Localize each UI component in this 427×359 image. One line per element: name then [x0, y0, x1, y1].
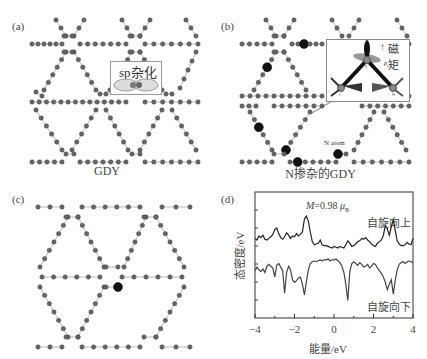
carbon-atom — [170, 108, 174, 112]
carbon-atom — [89, 80, 93, 84]
carbon-atom — [169, 100, 173, 104]
carbon-atom — [140, 223, 144, 227]
carbon-atom — [154, 335, 158, 339]
carbon-atom — [70, 50, 74, 54]
carbon-atom — [120, 275, 124, 279]
carbon-atom — [52, 310, 56, 314]
carbon-atom — [36, 205, 40, 209]
carbon-atom — [304, 104, 308, 108]
carbon-atom — [264, 18, 268, 22]
carbon-atom — [80, 326, 84, 330]
carbon-atom — [296, 94, 300, 98]
carbon-atom — [160, 345, 164, 349]
carbon-atom — [169, 42, 173, 46]
carbon-atom — [272, 34, 276, 38]
dopant-atom — [300, 40, 309, 49]
carbon-atom — [138, 148, 142, 152]
x-axis-label: 能量/eV — [309, 340, 347, 356]
carbon-atom — [272, 104, 276, 108]
carbon-atom — [124, 100, 128, 104]
carbon-atom — [78, 42, 82, 46]
carbon-atom — [30, 100, 34, 104]
carbon-atom — [296, 104, 300, 108]
carbon-atom — [312, 104, 316, 108]
carbon-atom — [91, 345, 95, 349]
carbon-atom — [196, 42, 200, 46]
carbon-atom — [148, 18, 152, 22]
carbon-atom — [364, 125, 368, 129]
sp-orbital-icon — [111, 62, 161, 94]
carbon-atom — [240, 104, 244, 108]
carbon-atom — [94, 108, 98, 112]
carbon-atom — [194, 148, 198, 152]
carbon-atom — [179, 124, 183, 128]
carbon-atom — [308, 110, 312, 114]
carbon-atom — [286, 57, 290, 61]
y-axis-label: 态密度/eV — [231, 221, 247, 291]
carbon-atom — [130, 152, 134, 156]
carbon-atom — [360, 104, 364, 108]
carbon-atom — [133, 240, 137, 244]
carbon-atom — [103, 345, 107, 349]
carbon-atom — [287, 26, 291, 30]
carbon-atom — [247, 42, 251, 46]
carbon-atom — [168, 310, 172, 314]
carbon-atom — [85, 42, 89, 46]
carbon-atom — [174, 345, 178, 349]
carbon-atom — [174, 205, 178, 209]
carbon-atom — [269, 26, 273, 30]
carbon-atom — [304, 88, 308, 92]
carbon-atom — [293, 133, 297, 137]
carbon-atom — [270, 42, 274, 46]
carbon-atom — [116, 265, 120, 269]
carbon-atom — [280, 94, 284, 98]
carbon-atom — [84, 124, 88, 128]
carbon-atom — [132, 275, 136, 279]
carbon-atom — [59, 26, 63, 30]
carbon-atom — [156, 275, 160, 279]
carbon-atom — [42, 42, 46, 46]
carbon-atom — [184, 132, 188, 136]
carbon-atom — [254, 104, 258, 108]
carbon-atom — [84, 231, 88, 235]
panel-b: (b) C C N ↑ 磁矩 pz N atom N掺杂的GDY — [214, 0, 427, 180]
carbon-atom — [55, 65, 59, 69]
carbon-atom — [288, 94, 292, 98]
carbon-atom — [188, 345, 192, 349]
carbon-atom — [54, 42, 58, 46]
carbon-atom — [383, 104, 387, 108]
carbon-atom — [73, 100, 77, 104]
carbon-atom — [282, 50, 286, 54]
carbon-atom — [186, 68, 190, 72]
carbon-atom — [182, 285, 186, 289]
carbon-atom — [247, 104, 251, 108]
carbon-atom — [272, 94, 276, 98]
carbon-atom — [335, 26, 339, 30]
spin-down-label: 自旋向下 — [367, 298, 411, 314]
carbon-atom — [104, 265, 108, 269]
carbon-atom — [75, 140, 79, 144]
carbon-atom — [80, 223, 84, 227]
carbon-atom — [46, 80, 50, 84]
carbon-atom — [312, 94, 316, 98]
carbon-atom — [160, 108, 164, 112]
carbon-atom — [77, 26, 81, 30]
carbon-atom — [48, 205, 52, 209]
carbon-atom — [115, 205, 119, 209]
carbon-atom — [177, 293, 181, 297]
carbon-atom — [172, 301, 176, 305]
carbon-atom — [256, 94, 260, 98]
carbon-atom — [116, 42, 120, 46]
carbon-atom — [155, 116, 159, 120]
carbon-atom — [42, 88, 46, 92]
carbon-atom — [368, 104, 372, 108]
carbon-atom — [399, 140, 403, 144]
carbon-atom — [147, 132, 151, 136]
carbon-atom — [129, 248, 133, 252]
carbon-atom — [160, 205, 164, 209]
caption-a: GDY — [0, 164, 214, 179]
carbon-atom — [272, 50, 276, 54]
carbon-atom — [280, 104, 284, 108]
carbon-atom — [400, 26, 404, 30]
carbon-atom — [44, 100, 48, 104]
